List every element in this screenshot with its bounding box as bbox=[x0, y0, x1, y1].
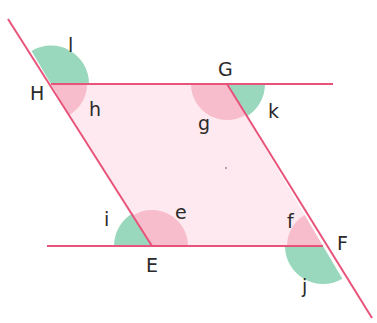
parallelogram-diagram: H G E F l h g k i e f j bbox=[0, 0, 377, 323]
vertex-label-h: H bbox=[30, 82, 44, 104]
angle-label-l: l bbox=[68, 34, 73, 56]
angle-label-j: j bbox=[301, 275, 307, 297]
vertex-label-e: E bbox=[146, 254, 158, 276]
angle-label-g: g bbox=[198, 112, 210, 134]
vertex-label-f: F bbox=[337, 232, 348, 254]
center-dot bbox=[225, 167, 227, 169]
vertex-label-g: G bbox=[218, 58, 233, 80]
angle-l-sector bbox=[32, 46, 90, 84]
angle-label-k: k bbox=[268, 100, 279, 122]
angle-j-sector bbox=[285, 246, 342, 284]
angle-label-h: h bbox=[89, 98, 101, 120]
angle-label-i: i bbox=[104, 208, 109, 230]
angle-label-e: e bbox=[175, 201, 187, 223]
